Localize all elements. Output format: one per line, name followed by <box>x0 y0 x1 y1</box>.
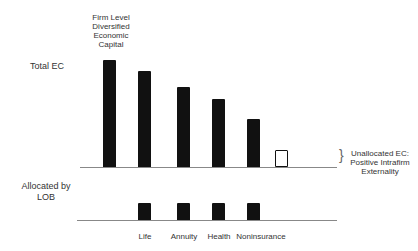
allocated-line2: LOB <box>16 192 76 203</box>
firm-level-line4: Capital <box>82 40 140 49</box>
lob-label-annuity: Annuity <box>166 232 202 241</box>
bottom-baseline <box>77 220 337 221</box>
bar-noninsurance-allocated <box>247 203 260 220</box>
lob-label-noninsurance: Noninsurance <box>234 232 288 241</box>
bar-noninsurance-total <box>247 119 260 167</box>
lob-label-life: Life <box>130 232 160 241</box>
allocated-by-lob-label: Allocated by LOB <box>16 181 76 203</box>
bar-annuity-allocated <box>177 203 190 220</box>
bar-firm-level <box>103 60 116 167</box>
bar-health-allocated <box>212 203 225 220</box>
bar-life-total <box>138 71 151 167</box>
firm-level-label: Firm Level Diversified Economic Capital <box>82 13 140 49</box>
allocated-line1: Allocated by <box>16 181 76 192</box>
lob-label-health: Health <box>202 232 236 241</box>
unallocated-line2: Positive Intrafirm <box>342 158 418 167</box>
bar-unallocated <box>275 150 288 167</box>
firm-level-line3: Economic <box>82 31 140 40</box>
total-ec-label: Total EC <box>22 61 72 72</box>
bar-health-total <box>212 99 225 167</box>
firm-level-line2: Diversified <box>82 22 140 31</box>
bar-life-allocated <box>138 203 151 220</box>
unallocated-label: Unallocated EC: Positive Intrafirm Exter… <box>342 149 418 176</box>
unallocated-line3: Externality <box>342 167 418 176</box>
firm-level-line1: Firm Level <box>82 13 140 22</box>
bar-annuity-total <box>177 87 190 167</box>
unallocated-line1: Unallocated EC: <box>342 149 418 158</box>
top-baseline <box>80 167 337 168</box>
